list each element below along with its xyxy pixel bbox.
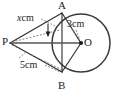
arrow-head-x [46,32,51,38]
center-point-marker [79,41,83,45]
point-label-P: P [2,36,8,47]
segment-radius-BO [62,43,81,72]
measurement-label-pa: xcm [17,13,34,23]
geometry-figure: A B P O xcm 3cm 5cm [0,0,124,94]
measurement-unit-pa: cm [21,12,33,23]
point-label-O: O [84,37,92,48]
point-label-A: A [58,0,66,11]
measurement-label-oa: 3cm [67,19,84,29]
measurement-label-pb: 5cm [20,60,37,70]
point-label-B: B [58,80,65,91]
leader-line-5-lower [45,65,60,72]
